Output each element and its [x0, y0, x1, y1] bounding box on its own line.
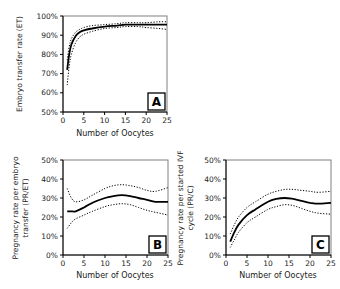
x-tick-label: 0	[61, 116, 66, 125]
x-tick-label: 25	[162, 116, 172, 125]
x-tick-label: 25	[326, 259, 336, 268]
x-axis-label-a: Number of Oocytes	[76, 129, 153, 138]
chart-panel-b: 0%10%20%30%40%50%0510152025B	[41, 156, 173, 269]
x-tick-label: 10	[100, 259, 110, 268]
y-tick-label: 50%	[204, 156, 221, 165]
chart-panel-a: 50%60%70%80%90%100%0510152025A	[37, 12, 172, 126]
y-axis-label-b-line2: transfer (PR/ET)	[21, 178, 30, 238]
x-tick-label: 0	[61, 259, 66, 268]
y-tick-label: 80%	[41, 50, 58, 59]
y-axis-label-b-line1: Pregnancy rate per embryo	[11, 156, 20, 259]
x-tick-label: 20	[305, 259, 315, 268]
panel-label: A	[152, 95, 162, 109]
x-tick-label: 0	[224, 259, 229, 268]
x-tick-label: 5	[82, 259, 87, 268]
y-tick-label: 20%	[41, 213, 58, 222]
x-tick-label: 10	[100, 116, 110, 125]
y-axis-label-c-line1: Pregnancy rate per started IVF	[176, 150, 185, 265]
x-tick-label: 10	[263, 259, 273, 268]
x-tick-label: 5	[81, 116, 86, 125]
y-tick-label: 0%	[209, 251, 221, 260]
y-tick-label: 20%	[204, 213, 221, 222]
y-axis-label-a: Embryo transfer rate (ET)	[15, 16, 24, 112]
panel-label: C	[316, 238, 325, 252]
x-tick-label: 20	[141, 116, 151, 125]
x-tick-label: 15	[121, 116, 131, 125]
y-tick-label: 40%	[41, 175, 58, 184]
y-tick-label: 90%	[41, 31, 58, 40]
chart-panel-c: 0%10%20%30%40%50%0510152025C	[204, 156, 336, 269]
y-tick-label: 60%	[41, 88, 58, 97]
x-tick-label: 15	[284, 259, 294, 268]
x-tick-label: 20	[142, 259, 152, 268]
y-tick-label: 10%	[41, 232, 58, 241]
x-tick-label: 25	[163, 259, 173, 268]
x-tick-label: 5	[245, 259, 250, 268]
y-axis-label-c-line2: cycle (PR/C)	[186, 185, 195, 230]
y-tick-label: 70%	[41, 69, 58, 78]
x-axis-label-b: Number of Oocytes	[76, 271, 153, 280]
x-tick-label: 15	[121, 259, 131, 268]
figure: 50%60%70%80%90%100%0510152025A 0%10%20%3…	[0, 0, 340, 289]
x-axis-label-c: Number of Oocytes	[239, 271, 316, 280]
y-tick-label: 0%	[46, 251, 58, 260]
y-tick-label: 100%	[37, 12, 58, 21]
y-tick-label: 50%	[41, 156, 58, 165]
y-tick-label: 40%	[204, 175, 221, 184]
y-tick-label: 10%	[204, 232, 221, 241]
y-tick-label: 50%	[41, 108, 58, 117]
panel-label: B	[153, 238, 162, 252]
y-tick-label: 30%	[41, 194, 58, 203]
y-tick-label: 30%	[204, 194, 221, 203]
